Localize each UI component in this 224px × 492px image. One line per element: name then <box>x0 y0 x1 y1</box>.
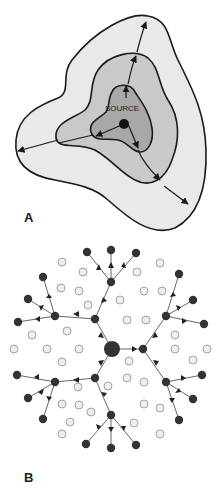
source-dot <box>119 119 129 129</box>
central-source-node <box>104 341 120 357</box>
figure: SOURCE <box>0 0 224 492</box>
panel-a-label: A <box>24 210 33 225</box>
panel-b-label: B <box>24 470 33 485</box>
panel-b-network <box>10 246 211 452</box>
panel-a-diagram: SOURCE <box>16 15 206 230</box>
source-label: SOURCE <box>105 104 139 113</box>
